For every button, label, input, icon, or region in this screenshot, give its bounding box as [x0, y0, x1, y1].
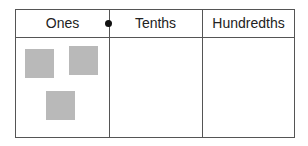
place-value-table: Ones Tenths Hundredths	[15, 9, 295, 138]
decimal-point-dot	[105, 20, 112, 27]
header-tenths: Tenths	[109, 10, 202, 37]
ones-block	[69, 46, 98, 75]
ones-block	[25, 49, 54, 78]
header-ones: Ones	[16, 10, 109, 37]
header-hundredths: Hundredths	[202, 10, 295, 37]
ones-block	[46, 91, 75, 120]
header-divider	[16, 37, 294, 38]
